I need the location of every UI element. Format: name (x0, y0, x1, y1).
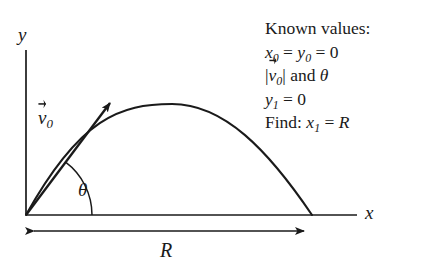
known-values-heading: Known values: (265, 17, 445, 41)
velocity-vector-label: v 0 (38, 108, 53, 131)
v0-symbol: v (269, 65, 277, 85)
y-axis-label: y (18, 25, 26, 44)
range-label: R (160, 240, 172, 260)
find-prefix: Find: (265, 112, 306, 132)
v0-vector-group: v (269, 64, 277, 88)
final-height-value: 0 (297, 89, 306, 109)
conjunction-and: and (286, 65, 320, 85)
find-target-symbol: R (339, 112, 350, 132)
known-value-speed-angle: |v0| and θ (265, 64, 445, 88)
x0-symbol: x (265, 42, 273, 62)
y1-symbol: y (265, 89, 273, 109)
find-line: Find: x1 = R (265, 111, 445, 135)
equals-sign-3: = (279, 89, 298, 109)
initial-position-value: 0 (330, 42, 339, 62)
y0-symbol: y (297, 42, 305, 62)
known-value-initial-position: x0 = y0 = 0 (265, 41, 445, 65)
equals-sign-2: = (311, 42, 330, 62)
theta-angle-label: θ (78, 180, 87, 199)
equals-sign-1: = (279, 42, 298, 62)
equals-sign-4: = (320, 112, 339, 132)
known-values-panel: Known values: x0 = y0 = 0 |v0| and θ y1 … (265, 17, 445, 135)
velocity-base-symbol: v (38, 107, 46, 128)
x1-symbol: x (306, 112, 314, 132)
vector-symbol-group: v (38, 108, 46, 127)
theta-symbol: θ (320, 65, 329, 85)
known-value-final-height: y1 = 0 (265, 88, 445, 112)
x-axis-label: x (365, 203, 373, 222)
velocity-subscript: 0 (46, 116, 52, 131)
projectile-motion-figure: y x θ R v 0 Known values: x0 = y0 = 0 |v… (0, 0, 447, 278)
